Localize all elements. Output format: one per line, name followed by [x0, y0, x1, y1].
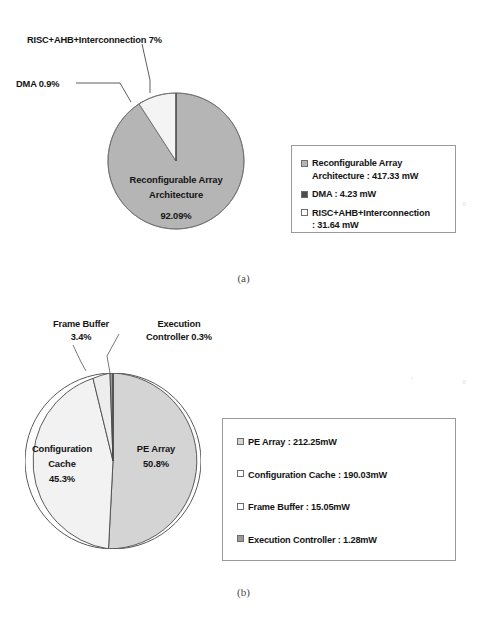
legend-item-label: RISC+AHB+Interconnection : 31.64 mW [312, 207, 430, 232]
figure-b-power-breakdown: Frame Buffer 3.4% Execution Controller 0… [0, 300, 487, 624]
callout-dma: DMA 0.9% [16, 78, 59, 91]
legend-swatch-icon [237, 438, 244, 445]
legend-line-1: Reconfigurable Array [312, 158, 402, 168]
callout-risc-ahb-interconnection: RISC+AHB+Interconnection 7% [27, 34, 162, 47]
legend-item-dma: DMA : 4.23 mW [301, 188, 455, 201]
legend-item-frame-buffer: Frame Buffer : 15.05mW [237, 501, 455, 514]
callout-line-2: Controller 0.3% [146, 332, 212, 342]
legend-item-label: Frame Buffer : 15.05mW [248, 501, 350, 514]
legend-line-2: Architecture : 417.33 mW [312, 171, 418, 181]
pie-label-percent: 45.3% [16, 471, 108, 486]
legend-swatch-icon [237, 470, 244, 477]
legend-swatch-icon [237, 535, 244, 542]
leader-line-frame-buffer [73, 345, 86, 371]
legend-item-label: Reconfigurable Array Architecture : 417.… [312, 157, 418, 182]
pie-label-configuration-cache: Configuration Cache 45.3% [16, 441, 108, 486]
legend-swatch-icon [237, 503, 244, 510]
callout-line-2: 3.4% [71, 332, 92, 342]
legend-swatch-icon [301, 160, 308, 167]
leader-line-risc [142, 44, 150, 93]
callout-frame-buffer: Frame Buffer 3.4% [38, 318, 124, 343]
figure-caption-a: (a) [0, 272, 487, 284]
pie-label-reconfigurable-array-architecture: Reconfigurable Array Architecture 92.09% [106, 172, 246, 223]
pie-label-line-1: Reconfigurable Array [130, 174, 223, 185]
legend-item-label: Configuration Cache : 190.03mW [248, 469, 387, 482]
legend-item-reconfigurable-array-architecture: Reconfigurable Array Architecture : 417.… [301, 157, 455, 182]
pie-label-pe-array: PE Array 50.8% [118, 441, 194, 471]
legend-item-configuration-cache: Configuration Cache : 190.03mW [237, 469, 455, 482]
legend-a: Reconfigurable Array Architecture : 417.… [291, 145, 456, 233]
legend-item-label: PE Array : 212.25mW [248, 436, 337, 449]
leader-line-dma [76, 83, 131, 102]
legend-line-1: RISC+AHB+Interconnection [312, 208, 430, 218]
legend-swatch-icon [301, 191, 308, 198]
callout-line-1: Frame Buffer [53, 319, 109, 329]
pie-label-percent: 50.8% [118, 456, 194, 471]
pie-label-line-2: Cache [48, 458, 76, 469]
pie-label-line-1: Configuration [32, 443, 92, 454]
pie-label-line-2: Architecture [149, 189, 203, 200]
legend-b: PE Array : 212.25mW Configuration Cache … [222, 418, 456, 561]
callout-line-1: Execution [157, 319, 200, 329]
legend-item-risc-ahb-interconnection: RISC+AHB+Interconnection : 31.64 mW [301, 207, 455, 232]
legend-item-execution-controller: Execution Controller : 1.28mW [237, 534, 455, 547]
legend-line-2: : 31.64 mW [312, 220, 359, 230]
legend-item-pe-array: PE Array : 212.25mW [237, 436, 455, 449]
legend-item-label: DMA : 4.23 mW [312, 188, 376, 201]
legend-item-label: Execution Controller : 1.28mW [248, 534, 377, 547]
pie-label-percent: 92.09% [106, 208, 246, 223]
legend-swatch-icon [301, 209, 308, 216]
callout-execution-controller: Execution Controller 0.3% [124, 318, 234, 343]
figure-caption-b: (b) [0, 586, 487, 598]
pie-label-line-1: PE Array [137, 443, 175, 454]
figure-a-power-breakdown: RISC+AHB+Interconnection 7% DMA 0.9% Rec… [0, 0, 487, 300]
